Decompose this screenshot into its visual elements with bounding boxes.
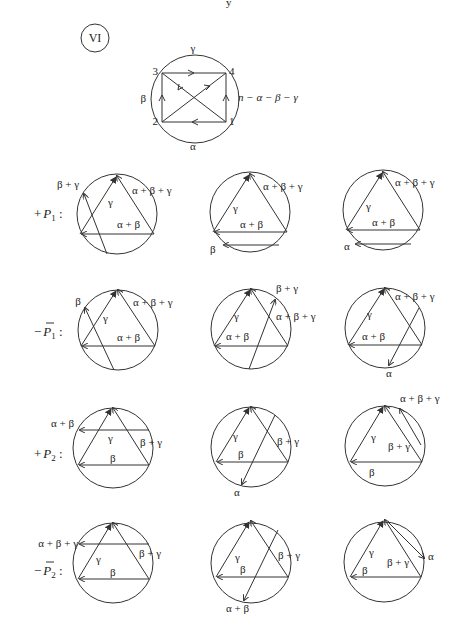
- svg-text:α + β + γ: α + β + γ: [276, 310, 316, 322]
- svg-text:α + β + γ: α + β + γ: [133, 296, 173, 308]
- svg-text:β + γ: β + γ: [57, 178, 79, 190]
- svg-text:γ: γ: [232, 202, 238, 214]
- svg-text:α + β: α + β: [226, 602, 249, 614]
- panel-1: β + γ γ α + β + γ α + β: [57, 174, 172, 254]
- svg-text:γ: γ: [107, 196, 113, 208]
- svg-text:β + γ: β + γ: [388, 440, 410, 452]
- row-label: +P1 :: [34, 206, 63, 223]
- svg-text:β + γ: β + γ: [277, 435, 299, 447]
- panel-3: α + β + γ γ α + β α: [345, 288, 435, 379]
- case-badge-label: VI: [89, 31, 102, 45]
- panel-3: γ β + γ β α: [344, 520, 434, 602]
- row-label: −P2 :: [34, 562, 63, 580]
- panel-2: γ β + γ β α: [211, 407, 299, 498]
- row-label: −P1 :: [34, 323, 63, 341]
- svg-text:γ: γ: [368, 546, 374, 558]
- svg-text:β + γ: β + γ: [140, 436, 162, 448]
- panel-2: γ β + γ β α + β: [211, 521, 300, 614]
- panel-3: γ α + β + γ α + β α: [343, 170, 435, 252]
- svg-text:β: β: [210, 243, 216, 255]
- arc-label-top: γ: [190, 42, 196, 54]
- case-badge: VI: [81, 24, 109, 52]
- vertex-4: 4: [229, 65, 235, 77]
- svg-text:α + β + γ: α + β + γ: [263, 180, 303, 192]
- row-plus-P1: +P1 : β + γ γ α + β + γ α + β γ α + β + …: [34, 170, 435, 255]
- top-quadrilateral-diagram: 3 4 2 1 γ β α n − α − β − γ: [140, 42, 298, 152]
- row-minus-P2-bar: −P2 : α + β + γ γ β + γ β γ β + γ β α + …: [34, 520, 434, 614]
- svg-text:β + γ: β + γ: [276, 282, 298, 294]
- svg-text:β + γ: β + γ: [139, 547, 161, 559]
- svg-text:α + β + γ: α + β + γ: [395, 176, 435, 188]
- svg-text:α + β: α + β: [372, 216, 395, 228]
- svg-text:−P1 :: −P1 :: [34, 324, 63, 341]
- svg-text:α: α: [344, 240, 350, 252]
- arc-label-left: β: [140, 92, 146, 104]
- row-minus-P1-bar: −P1 : β γ α + β + γ α + β β + γ γ α + β …: [34, 282, 435, 379]
- arc-label-bottom: α: [190, 140, 196, 152]
- row-label: +P2 :: [34, 446, 63, 463]
- svg-text:γ: γ: [365, 200, 371, 212]
- svg-text:α: α: [234, 486, 240, 498]
- svg-text:γ: γ: [366, 308, 372, 320]
- svg-text:α: α: [428, 550, 434, 562]
- panel-3: α + β + γ γ β + γ β: [345, 392, 440, 486]
- svg-text:α + β + γ: α + β + γ: [132, 184, 172, 196]
- panel-1: β γ α + β + γ α + β: [75, 290, 173, 370]
- svg-text:α + β: α + β: [362, 330, 385, 342]
- row-plus-P2: +P2 : α + β γ β + γ β γ β + γ β α: [34, 392, 440, 498]
- svg-text:β: β: [238, 448, 244, 460]
- arc-label-right: n − α − β − γ: [238, 91, 299, 103]
- svg-text:−P2 :: −P2 :: [34, 563, 63, 580]
- svg-text:+P2 :: +P2 :: [34, 446, 63, 463]
- svg-text:α + β: α + β: [240, 218, 263, 230]
- svg-text:β: β: [369, 466, 375, 478]
- svg-text:γ: γ: [232, 430, 238, 442]
- svg-text:β: β: [75, 295, 81, 307]
- svg-text:α + β + γ: α + β + γ: [400, 392, 440, 404]
- svg-text:γ: γ: [102, 312, 108, 324]
- vertex-1: 1: [229, 115, 235, 127]
- svg-text:γ: γ: [370, 431, 376, 443]
- svg-text:α + β + γ: α + β + γ: [395, 290, 435, 302]
- svg-text:γ: γ: [95, 553, 101, 565]
- panel-1: α + β γ β + γ β: [51, 408, 162, 488]
- svg-text:γ: γ: [107, 432, 113, 444]
- svg-text:β: β: [110, 452, 116, 464]
- svg-text:γ: γ: [233, 310, 239, 322]
- panel-2: γ α + β + γ α + β β: [210, 172, 303, 255]
- chord-diagram-figure: y VI 3 4 2 1 γ β α n − α − β − γ +P1 :: [0, 0, 451, 625]
- svg-text:β: β: [240, 563, 246, 575]
- svg-text:γ: γ: [234, 551, 240, 563]
- vertex-2: 2: [153, 115, 159, 127]
- svg-text:+P1 :: +P1 :: [34, 206, 63, 223]
- svg-text:α + β: α + β: [117, 218, 140, 230]
- svg-text:β: β: [110, 566, 116, 578]
- svg-text:α + β: α + β: [226, 330, 249, 342]
- svg-text:β: β: [362, 564, 368, 576]
- vertex-3: 3: [153, 65, 159, 77]
- svg-text:α + β: α + β: [51, 417, 74, 429]
- svg-text:β + γ: β + γ: [278, 549, 300, 561]
- svg-text:α: α: [386, 367, 392, 379]
- svg-text:β + γ: β + γ: [387, 556, 409, 568]
- page-marker: y: [226, 0, 232, 8]
- panel-2: β + γ γ α + β + γ α + β: [211, 282, 316, 369]
- svg-text:α + β + γ: α + β + γ: [38, 537, 78, 549]
- svg-text:α + β: α + β: [117, 331, 140, 343]
